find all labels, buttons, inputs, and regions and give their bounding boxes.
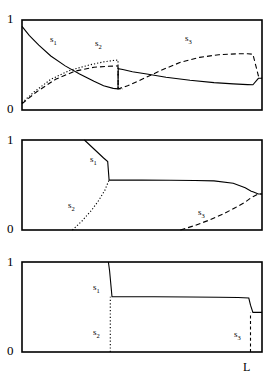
y-bottom-label-panel-middle: 0 [7, 222, 14, 235]
panel-bottom-frame [22, 262, 262, 352]
curve-s3-middle [180, 194, 262, 230]
panel-bottom: s1 s2 s3 1 0 L [0, 252, 278, 382]
panel-middle: s1 s2 s3 1 0 [0, 128, 278, 248]
y-top-label-panel-bottom: 1 [7, 255, 14, 268]
panel-top-series [22, 26, 262, 103]
x-axis-label: L [243, 360, 250, 375]
curve-s2-middle [72, 180, 109, 230]
label-s1-bottom: s1 [93, 282, 100, 294]
label-s3-middle: s3 [198, 207, 205, 219]
label-s2-top: s2 [95, 38, 102, 50]
label-s2-middle: s2 [68, 200, 75, 212]
panel-top-plot: s1 s2 s3 [0, 0, 278, 122]
curve-s1-middle [84, 140, 262, 194]
curve-s1-bottom [108, 262, 262, 312]
label-s1-top: s1 [50, 34, 57, 46]
label-s1-middle: s1 [90, 154, 97, 166]
three-panel-figure: s1 s2 s3 1 0 s1 s2 s3 1 0 [0, 0, 278, 382]
panel-top-frame [22, 20, 262, 110]
panel-middle-plot: s1 s2 s3 [0, 128, 278, 248]
label-s2-bottom: s2 [93, 327, 100, 339]
y-bottom-label-panel-top: 0 [7, 102, 14, 115]
y-top-label-panel-middle: 1 [7, 133, 14, 146]
panel-middle-frame [22, 140, 262, 230]
panel-middle-series [72, 140, 262, 230]
label-s3-top: s3 [185, 33, 192, 45]
panel-bottom-plot: s1 s2 s3 [0, 252, 278, 382]
label-s3-bottom: s3 [234, 329, 241, 341]
panel-top: s1 s2 s3 1 0 [0, 0, 278, 122]
y-bottom-label-panel-bottom: 0 [7, 344, 14, 357]
y-top-label-panel-top: 1 [7, 12, 14, 25]
curve-s2-top [22, 60, 123, 103]
